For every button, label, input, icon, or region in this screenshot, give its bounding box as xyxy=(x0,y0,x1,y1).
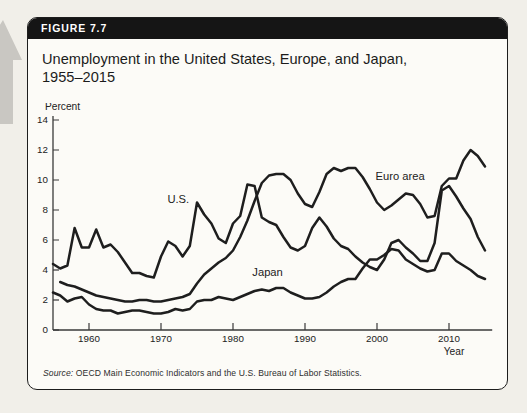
source-text: OECD Main Economic Indicators and the U.… xyxy=(73,368,361,378)
source-note: Source: OECD Main Economic Indicators an… xyxy=(43,368,362,378)
y-tick-label: 0 xyxy=(43,324,49,335)
x-tick-label: 1990 xyxy=(294,333,316,344)
figure-title: Unemployment in the United States, Europ… xyxy=(28,39,507,86)
figure-card: FIGURE 7.7 Unemployment in the United St… xyxy=(27,17,508,390)
y-tick-label: 6 xyxy=(43,234,49,245)
page: FIGURE 7.7 Unemployment in the United St… xyxy=(0,0,527,413)
series-label-euro-area: Euro area xyxy=(375,170,425,182)
x-tick-label: 1980 xyxy=(222,333,244,344)
series-label-japan: Japan xyxy=(252,266,282,278)
chart-area: 02468101214196019701980199020002010Perce… xyxy=(28,103,508,368)
x-tick-label: 1970 xyxy=(150,333,172,344)
figure-header-bar: FIGURE 7.7 xyxy=(28,18,507,39)
up-arrow-shape xyxy=(0,20,22,124)
y-axis-title: Percent xyxy=(45,103,80,112)
x-tick-label: 1960 xyxy=(78,333,100,344)
figure-label: FIGURE 7.7 xyxy=(41,22,107,34)
y-tick-label: 8 xyxy=(43,204,49,215)
x-tick-label: 2000 xyxy=(366,333,388,344)
figure-title-line2: 1955–2015 xyxy=(42,68,487,86)
x-tick-label: 2010 xyxy=(438,333,460,344)
series-line-u-s- xyxy=(53,185,485,278)
figure-title-line1: Unemployment in the United States, Europ… xyxy=(42,50,487,68)
y-tick-label: 4 xyxy=(43,264,49,275)
y-tick-label: 12 xyxy=(37,144,48,155)
y-tick-label: 10 xyxy=(37,174,48,185)
page-nav-up-arrow-icon[interactable] xyxy=(0,18,26,130)
series-line-japan xyxy=(53,249,485,314)
series-label-u-s-: U.S. xyxy=(167,193,189,205)
source-prefix: Source: xyxy=(43,368,73,378)
x-axis-title: Year xyxy=(444,346,465,357)
y-tick-label: 14 xyxy=(37,114,48,125)
y-tick-label: 2 xyxy=(43,294,48,305)
chart-canvas: 02468101214196019701980199020002010Perce… xyxy=(28,103,508,368)
